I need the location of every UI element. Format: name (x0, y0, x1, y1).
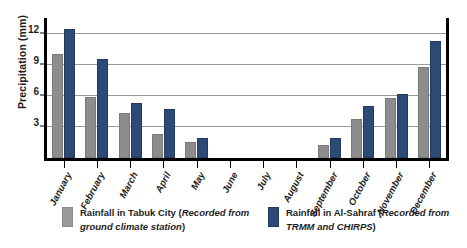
legend-label-tabuk-close: ) (182, 221, 185, 232)
y-tick-label: 3 (33, 116, 39, 127)
x-tick-mark (380, 161, 413, 168)
x-label-cell: April (147, 168, 180, 208)
y-tick-label: 12 (28, 23, 39, 34)
bar (64, 29, 75, 158)
x-label-cell: August (280, 168, 313, 208)
x-tick-mark (346, 161, 379, 168)
legend-entry-tabuk-city: Rainfall in Tabuk City (Recorded from gr… (62, 206, 250, 233)
y-tick-label: 6 (33, 85, 39, 96)
y-tick-mark (40, 94, 45, 95)
x-tick-label: June (219, 170, 239, 195)
x-tick-mark (114, 161, 147, 168)
month-group (380, 18, 413, 158)
legend-label-al-sahraf-close: ) (373, 221, 376, 232)
x-tick-mark (47, 161, 80, 168)
legend-swatch-icon-tabuk (62, 207, 73, 227)
month-group (413, 18, 446, 158)
x-tick-label: April (153, 170, 173, 194)
month-group (180, 18, 213, 158)
x-label-cell: May (180, 168, 213, 208)
legend-swatch-icon-al-sahraf (268, 207, 279, 227)
plot-area: 36912 (44, 18, 449, 161)
y-tick-mark (40, 125, 45, 126)
bar (363, 106, 374, 158)
bar (164, 109, 175, 158)
x-tick-label: January (47, 170, 74, 207)
month-group (346, 18, 379, 158)
x-tick-mark (80, 161, 113, 168)
precipitation-bar-chart: Precipitation (mm) 36912 JanuaryFebruary… (0, 0, 467, 248)
legend-entry-al-sahraf: Rainfall in Al-Sahraf (Recorded from TRM… (268, 206, 456, 233)
month-group (213, 18, 246, 158)
bar (351, 119, 362, 158)
x-tick-mark (247, 161, 280, 168)
x-axis-labels: JanuaryFebruaryMarchAprilMayJuneJulyAugu… (47, 168, 446, 208)
bar (330, 138, 341, 158)
month-group (313, 18, 346, 158)
legend-label-al-sahraf: Rainfall in Al-Sahraf (Recorded from TRM… (286, 206, 456, 233)
month-group (47, 18, 80, 158)
bar (397, 94, 408, 158)
y-tick-mark (40, 63, 45, 64)
x-tick-label: October (346, 170, 373, 207)
x-label-cell: July (247, 168, 280, 208)
chart-legend: Rainfall in Tabuk City (Recorded from gr… (0, 204, 467, 248)
bar (385, 98, 396, 158)
bar (318, 145, 329, 158)
bar (152, 134, 163, 158)
x-label-cell: November (380, 168, 413, 208)
x-label-cell: December (413, 168, 446, 208)
x-tick-label: July (254, 170, 273, 192)
bar (52, 54, 63, 158)
x-tick-label: March (117, 170, 140, 200)
bar (185, 142, 196, 158)
y-tick-label: 9 (33, 54, 39, 65)
bar (430, 41, 441, 158)
bar (418, 67, 429, 158)
legend-label-tabuk: Rainfall in Tabuk City (Recorded from gr… (80, 206, 250, 233)
bar (197, 138, 208, 158)
x-label-cell: September (313, 168, 346, 208)
x-label-cell: October (346, 168, 379, 208)
legend-label-al-sahraf-main: Rainfall in Al-Sahraf ( (286, 207, 382, 218)
y-tick-mark (40, 32, 45, 33)
x-axis-ticks (47, 161, 446, 168)
month-group (114, 18, 147, 158)
bar (131, 103, 142, 158)
month-group (147, 18, 180, 158)
x-tick-mark (413, 161, 446, 168)
x-tick-mark (280, 161, 313, 168)
x-label-cell: January (47, 168, 80, 208)
bar (85, 97, 96, 158)
x-tick-mark (213, 161, 246, 168)
y-axis-line-right (446, 18, 449, 161)
x-tick-mark (313, 161, 346, 168)
y-axis-title: Precipitation (mm) (16, 0, 28, 132)
month-group (247, 18, 280, 158)
x-label-cell: February (80, 168, 113, 208)
bars-layer (47, 18, 446, 158)
x-tick-mark (180, 161, 213, 168)
bar (119, 113, 130, 158)
x-tick-label: August (281, 170, 306, 204)
x-label-cell: June (213, 168, 246, 208)
x-tick-mark (147, 161, 180, 168)
month-group (280, 18, 313, 158)
x-tick-label: May (188, 170, 206, 191)
x-label-cell: March (114, 168, 147, 208)
legend-label-tabuk-main: Rainfall in Tabuk City ( (80, 207, 182, 218)
bar (97, 59, 108, 158)
month-group (80, 18, 113, 158)
